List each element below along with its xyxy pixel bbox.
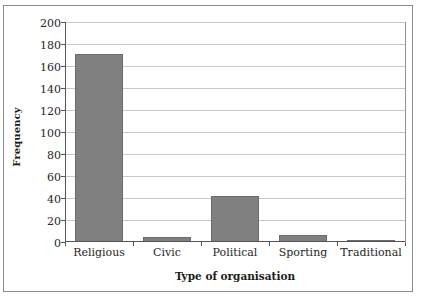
x-tick-label-religious: Religious (65, 247, 133, 259)
y-tick-label: 140 (27, 84, 61, 95)
scan-text-fragment: · (352, 0, 354, 2)
y-tick-label: 20 (27, 216, 61, 227)
bar-political[interactable] (211, 196, 259, 242)
x-axis-line (65, 241, 406, 242)
x-axis-title: Type of organisation (65, 270, 405, 282)
x-tick-label-traditional: Traditional (337, 247, 405, 259)
x-tick-mark (269, 242, 270, 246)
gridline (65, 44, 405, 45)
x-tick-mark (133, 242, 134, 246)
y-tick-label: 180 (27, 40, 61, 51)
y-tick-label: 100 (27, 128, 61, 139)
plot-area (65, 22, 405, 242)
y-tick-label: 0 (27, 238, 61, 249)
gridline (65, 22, 405, 23)
x-axis-tick-labels: Religious Civic Political Sporting Tradi… (65, 247, 405, 263)
scan-text-fragment: · (196, 0, 198, 2)
y-axis-title: Frequency (11, 92, 22, 182)
y-tick-label: 60 (27, 172, 61, 183)
y-tick-label: 120 (27, 106, 61, 117)
y-tick-label: 160 (27, 62, 61, 73)
y-tick-label: 200 (27, 18, 61, 29)
scan-text-fragment: · (58, 0, 60, 2)
bar-religious[interactable] (75, 54, 123, 242)
x-tick-label-political: Political (201, 247, 269, 259)
x-tick-label-civic: Civic (133, 247, 201, 259)
x-tick-mark (337, 242, 338, 246)
y-axis-tick-labels: 200 180 160 140 120 100 80 60 40 20 0 (23, 22, 61, 242)
x-tick-label-sporting: Sporting (269, 247, 337, 259)
y-tick-label: 40 (27, 194, 61, 205)
y-axis-line (65, 22, 66, 243)
y-tick-label: 80 (27, 150, 61, 161)
x-tick-mark (201, 242, 202, 246)
plot-right-edge (405, 22, 406, 243)
